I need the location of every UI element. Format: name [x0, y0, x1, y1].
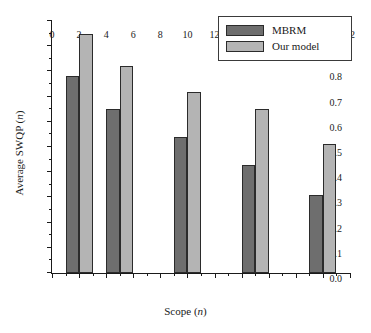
bar: [187, 92, 201, 273]
y-tick-major: [47, 45, 52, 46]
y-tick-major: [47, 146, 52, 147]
x-tick-minor: [201, 273, 202, 276]
legend-swatch-icon: [226, 25, 264, 36]
x-tick-major: [350, 273, 351, 278]
x-tick-label: 0: [50, 29, 55, 40]
bar: [323, 144, 337, 273]
y-tick-major: [47, 222, 52, 223]
x-axis-title-italic: n: [198, 305, 204, 317]
x-tick-major: [106, 273, 107, 278]
bar: [174, 137, 188, 273]
y-tick-minor: [49, 133, 52, 134]
y-tick-major: [47, 171, 52, 172]
bar: [79, 34, 93, 273]
y-tick-minor: [49, 108, 52, 109]
y-tick-major: [47, 70, 52, 71]
y-axis-title: Average SWQP (n): [13, 73, 25, 233]
legend: MBRMOur model: [218, 16, 352, 61]
x-tick-major: [242, 273, 243, 278]
y-tick-major: [47, 121, 52, 122]
legend-item: MBRM: [226, 22, 344, 38]
bar: [309, 195, 323, 273]
x-tick-label: 8: [158, 29, 163, 40]
x-tick-major: [323, 273, 324, 278]
x-tick-label: 6: [131, 29, 136, 40]
legend-label: MBRM: [272, 25, 306, 36]
y-tick-major: [47, 196, 52, 197]
chart-figure: 0.00.10.20.30.40.50.60.70.80.91.00246810…: [0, 0, 371, 333]
x-tick-minor: [228, 273, 229, 276]
y-tick-minor: [49, 159, 52, 160]
x-tick-minor: [174, 273, 175, 276]
bar: [242, 165, 256, 273]
y-tick-major: [47, 247, 52, 248]
x-tick-minor: [147, 273, 148, 276]
y-tick-major: [47, 20, 52, 21]
y-tick-major: [47, 96, 52, 97]
y-tick-minor: [49, 259, 52, 260]
x-tick-minor: [66, 273, 67, 276]
x-tick-major: [160, 273, 161, 278]
legend-item: Our model: [226, 38, 344, 54]
x-tick-major: [133, 273, 134, 278]
x-tick-label: 10: [182, 29, 192, 40]
bar: [255, 109, 269, 273]
x-tick-major: [269, 273, 270, 278]
x-tick-major: [215, 273, 216, 278]
legend-swatch-icon: [226, 41, 264, 52]
x-tick-minor: [282, 273, 283, 276]
y-tick-minor: [49, 58, 52, 59]
x-tick-minor: [93, 273, 94, 276]
y-axis-title-italic: n: [13, 114, 25, 120]
y-tick-minor: [49, 234, 52, 235]
x-tick-minor: [309, 273, 310, 276]
x-tick-major: [187, 273, 188, 278]
y-tick-minor: [49, 83, 52, 84]
x-tick-minor: [255, 273, 256, 276]
x-tick-minor: [336, 273, 337, 276]
y-tick-minor: [49, 209, 52, 210]
y-tick-minor: [49, 184, 52, 185]
x-tick-major: [52, 273, 53, 278]
x-axis-title-text: Scope: [164, 305, 191, 317]
bar: [66, 76, 80, 273]
legend-label: Our model: [272, 41, 319, 52]
y-axis-title-text: Average SWQP: [13, 126, 25, 195]
x-axis-title: Scope (n): [0, 305, 371, 317]
x-tick-major: [79, 273, 80, 278]
bar: [120, 66, 134, 273]
x-tick-major: [296, 273, 297, 278]
x-tick-label: 4: [104, 29, 109, 40]
bar: [106, 109, 120, 273]
x-tick-minor: [120, 273, 121, 276]
